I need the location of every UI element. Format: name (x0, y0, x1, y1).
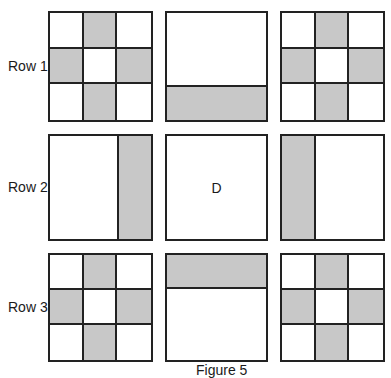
row-2-cell-3-left-band (280, 134, 385, 241)
missing-cell-label: D (167, 180, 266, 196)
row-3-cell-3-cross (280, 253, 385, 362)
row-3-label: Row 3 (8, 299, 48, 315)
row-2-label: Row 2 (8, 179, 48, 195)
row-1-cell-2-bottom-band (165, 11, 268, 122)
row-1-cell-1-cross (48, 11, 153, 122)
row-3-cell-2-top-band (165, 253, 268, 362)
row-2-cell-1-right-band (48, 134, 153, 241)
row-2-cell-2-missing: D (165, 134, 268, 241)
row-1-cell-3-cross (280, 11, 385, 122)
figure-caption: Figure 5 (196, 362, 247, 378)
row-1-label: Row 1 (8, 58, 48, 74)
row-3-cell-1-cross (48, 253, 153, 362)
